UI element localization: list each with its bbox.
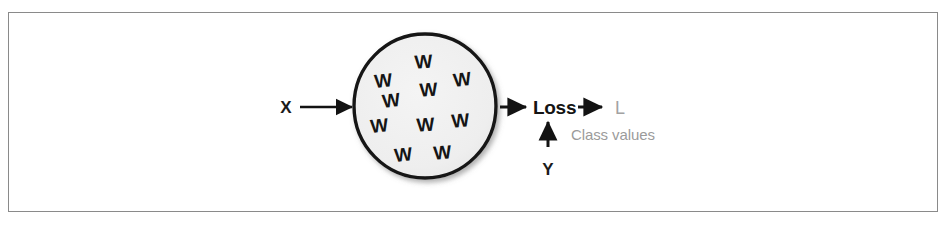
- weight-symbol: W: [369, 114, 389, 137]
- weight-symbol: W: [414, 50, 433, 72]
- weight-symbol: W: [433, 141, 453, 163]
- input-label-x: X: [280, 98, 292, 117]
- model-node: W W W W W W W W W W: [354, 34, 496, 178]
- loss-node-label: Loss: [533, 97, 576, 118]
- weight-symbol: W: [416, 113, 435, 135]
- diagram-canvas: X W W W W W W W W W W Loss L: [0, 0, 947, 226]
- weight-symbol: W: [452, 68, 472, 91]
- weight-symbol: W: [419, 78, 438, 100]
- output-description-label: Class values: [571, 126, 655, 143]
- weight-symbol: W: [373, 69, 393, 92]
- target-label-y: Y: [542, 160, 554, 179]
- output-label-l: L: [615, 98, 625, 118]
- weight-symbol: W: [381, 89, 401, 112]
- weight-symbol: W: [451, 109, 471, 131]
- figure-root: X W W W W W W W W W W Loss L: [0, 0, 947, 226]
- weight-symbol: W: [393, 143, 413, 166]
